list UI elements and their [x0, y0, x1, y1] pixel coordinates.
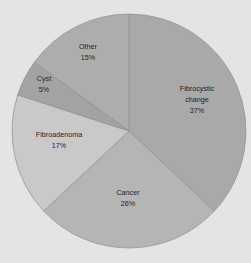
pie-chart: Fibrocysticchange37%Cancer26%Fibroadenom… — [0, 0, 251, 263]
